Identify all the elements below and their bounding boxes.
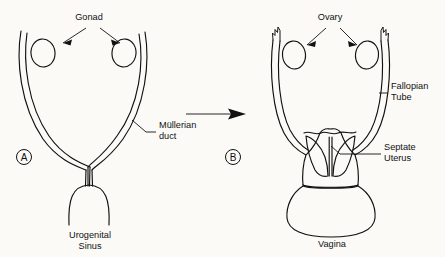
vagina [287, 186, 375, 237]
panel-b-group: B Ovary Fallopian Tube Septate Uterus Va… [226, 12, 429, 249]
label-fallopian-tube-line2: Tube [391, 92, 412, 102]
panel-badge-b-label: B [230, 152, 237, 163]
left-fimbria [273, 27, 281, 41]
label-urogenital-sinus-line2: Sinus [79, 241, 102, 251]
label-mullerian-duct-line1: Müllerian [159, 120, 196, 130]
left-gonad [29, 38, 56, 69]
left-ovary [281, 40, 307, 70]
gonad-leader-left [63, 28, 86, 46]
label-septate-uterus-line2: Uterus [384, 153, 411, 163]
label-septate-uterus-line1: Septate [384, 142, 416, 152]
urogenital-sinus [69, 185, 109, 225]
mullerian-duct-leader [132, 120, 156, 132]
panel-a-group: A Gonad Müllerian duct Urogenital Sinus [17, 12, 197, 251]
label-gonad: Gonad [75, 12, 103, 22]
transition-arrow [186, 109, 246, 120]
panel-badge-a: A [17, 150, 32, 165]
ovary-leader-left [307, 28, 326, 47]
diagram-canvas: A Gonad Müllerian duct Urogenital Sinus [0, 0, 445, 257]
right-fimbria [381, 27, 389, 41]
gonad-leader-right [100, 28, 120, 46]
panel-badge-b: B [226, 150, 241, 165]
uterus-body [303, 129, 359, 188]
label-mullerian-duct-line2: duct [159, 131, 177, 141]
ovary-leader-right [340, 28, 357, 47]
panel-badge-a-label: A [21, 152, 28, 163]
right-ovary [354, 40, 380, 70]
label-urogenital-sinus-line1: Urogenital [69, 230, 111, 240]
duct-convergence-neck [86, 167, 93, 186]
label-ovary: Ovary [318, 12, 343, 22]
label-fallopian-tube-line1: Fallopian [391, 81, 428, 91]
anatomy-figure: A Gonad Müllerian duct Urogenital Sinus [0, 0, 445, 257]
label-vagina: Vagina [318, 239, 347, 249]
